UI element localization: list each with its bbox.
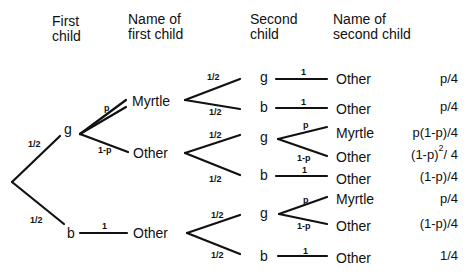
edge-label-root-b: 1/2 xyxy=(30,216,43,225)
leaf-name-1: Other xyxy=(336,102,371,116)
edge-label-leaf-6: 1-p xyxy=(297,222,311,231)
leaf-prob-0: p/4 xyxy=(440,72,458,85)
header-name-second-line2: second child xyxy=(333,27,411,42)
node-second-3: b xyxy=(260,168,268,182)
header-second-child: Second child xyxy=(250,12,297,42)
edge-label-leaf-0: 1 xyxy=(301,68,306,77)
leaf-name-7: Other xyxy=(336,251,371,265)
leaf-prob-5: p/4 xyxy=(440,192,458,205)
leaf-prob-3-tail: / 4 xyxy=(444,147,458,162)
header-first-child: First child xyxy=(52,14,81,44)
leaf-prob-3: (1-p)2/ 4 xyxy=(411,148,458,161)
leaf-name-6: Other xyxy=(336,219,371,233)
header-second-child-line1: Second xyxy=(250,12,297,27)
edge-label-leaf-5: p xyxy=(303,196,309,205)
leaf-prob-4: (1-p)/4 xyxy=(420,170,458,183)
node-second-0: g xyxy=(260,70,268,84)
leaf-name-5: Myrtle xyxy=(336,192,374,206)
name-first-other-g: Other xyxy=(133,146,168,160)
edge-label-g-other: 1-p xyxy=(98,146,112,155)
name-first-myrtle: Myrtle xyxy=(132,94,170,108)
leaf-prob-3-base: (1-p) xyxy=(411,147,438,162)
leaf-prob-3-exp: 2 xyxy=(439,143,444,153)
header-name-first-line2: first child xyxy=(128,27,183,42)
edge-label-l3-0: 1/2 xyxy=(207,73,220,82)
header-name-second-line1: Name of xyxy=(333,12,411,27)
edge-label-leaf-3: 1-p xyxy=(297,154,311,163)
leaf-name-2: Myrtle xyxy=(336,126,374,140)
header-name-first-child: Name of first child xyxy=(128,12,183,42)
node-second-2: g xyxy=(260,130,268,144)
leaf-prob-6: (1-p)/4 xyxy=(420,217,458,230)
leaf-prob-1: p/4 xyxy=(440,100,458,113)
leaf-prob-2: p(1-p)/4 xyxy=(412,126,458,139)
edge-label-leaf-1: 1 xyxy=(301,98,306,107)
node-second-5: b xyxy=(260,249,268,263)
edge-label-g-myrtle: p xyxy=(104,104,110,113)
leaf-prob-7: 1/4 xyxy=(440,249,458,262)
edge-label-root-g: 1/2 xyxy=(28,140,41,149)
edge-label-leaf-2: p xyxy=(303,121,309,130)
edge-label-l3-5: 1/2 xyxy=(211,251,224,260)
name-first-other-b: Other xyxy=(133,226,168,240)
leaf-name-3: Other xyxy=(336,150,371,164)
edge-label-l3-1: 1/2 xyxy=(209,108,222,117)
edge-label-l3-2: 1/2 xyxy=(209,131,222,140)
leaf-name-0: Other xyxy=(336,72,371,86)
edge-label-leaf-4: 1 xyxy=(302,166,307,175)
node-second-1: b xyxy=(260,100,268,114)
edge-label-l3-3: 1/2 xyxy=(209,175,222,184)
header-name-first-line1: Name of xyxy=(128,12,183,27)
node-first-g: g xyxy=(64,122,72,136)
node-second-4: g xyxy=(260,206,268,220)
node-first-b: b xyxy=(67,226,75,240)
edge-label-leaf-7: 1 xyxy=(303,247,308,256)
edge-label-l3-4: 1/2 xyxy=(211,211,224,220)
header-name-second-child: Name of second child xyxy=(333,12,411,42)
header-second-child-line2: child xyxy=(250,27,297,42)
header-first-child-line2: child xyxy=(52,29,81,44)
header-first-child-line1: First xyxy=(52,14,81,29)
leaf-name-4: Other xyxy=(336,172,371,186)
edge-label-b-other: 1 xyxy=(102,222,107,231)
